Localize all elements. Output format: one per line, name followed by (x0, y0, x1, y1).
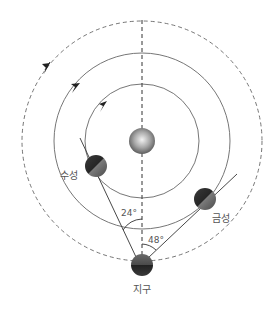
elongation-diagram: 수성 금성 지구 24° 48° (0, 0, 279, 311)
mercury-planet-icon (85, 155, 107, 177)
mercury-label: 수성 (60, 170, 78, 181)
earth-planet-icon (131, 254, 153, 276)
venus-orbit-arrow-icon (71, 83, 80, 93)
mercury-angle-label: 24° (121, 208, 137, 218)
sun-icon (129, 128, 155, 154)
earth-label: 지구 (133, 284, 151, 295)
mercury-sightline (80, 138, 136, 257)
venus-planet-icon (194, 188, 216, 210)
venus-angle-label: 48° (148, 235, 164, 245)
venus-label: 금성 (212, 213, 230, 224)
